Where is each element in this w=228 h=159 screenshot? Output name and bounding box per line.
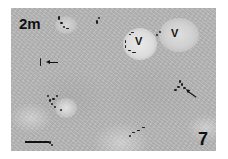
pale-region — [55, 98, 77, 118]
vessel-label: V — [135, 36, 142, 47]
panel-number: 7 — [198, 130, 208, 148]
micrograph-panel: 2m V V 7 — [11, 8, 216, 151]
panel-tag: 2m — [19, 16, 41, 31]
vessel-lumen — [159, 18, 199, 52]
vessel-label: V — [171, 28, 178, 39]
arrow-left-icon — [49, 62, 58, 63]
scale-bar — [25, 141, 49, 143]
